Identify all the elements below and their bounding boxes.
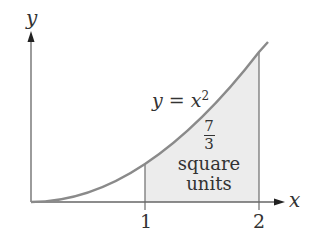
y-axis-arrow-icon: [28, 31, 35, 42]
area-denominator: 3: [204, 135, 214, 153]
equation-exponent: 2: [201, 89, 209, 103]
area-under-parabola-diagram: y x 1 2 y = x2 7 3 square units: [0, 0, 315, 251]
x-axis-label: x: [289, 188, 300, 212]
plot-canvas: [0, 0, 315, 251]
x-tick-label-2: 2: [253, 210, 265, 232]
area-fraction: 7 3: [171, 119, 247, 152]
area-units-line1: square: [171, 154, 247, 174]
area-numerator: 7: [204, 117, 214, 135]
area-units-line2: units: [171, 174, 247, 194]
x-axis-arrow-icon: [274, 199, 285, 206]
equation-lhs: y = x: [152, 89, 201, 111]
area-annotation: 7 3 square units: [171, 119, 247, 194]
y-axis-label: y: [26, 6, 37, 30]
x-tick-label-1: 1: [140, 210, 152, 232]
curve-equation-label: y = x2: [152, 89, 209, 111]
